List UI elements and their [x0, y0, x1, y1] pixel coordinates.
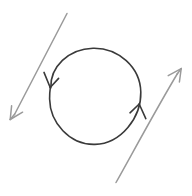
- sketch-canvas: [0, 0, 192, 196]
- sketch-drawing: [0, 0, 192, 196]
